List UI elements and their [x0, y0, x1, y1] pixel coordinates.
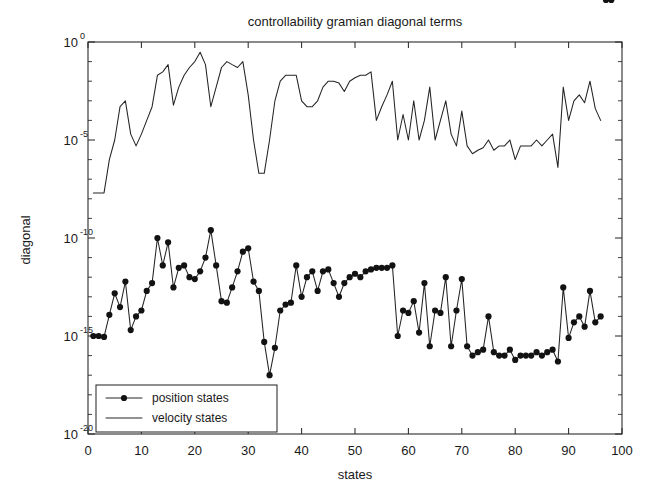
data-point — [218, 298, 224, 304]
data-point — [544, 349, 550, 355]
data-point — [533, 349, 539, 355]
legend-label-velocity-states: velocity states — [152, 411, 227, 425]
data-point — [315, 288, 321, 294]
x-tick-label: 70 — [455, 443, 469, 458]
data-point — [539, 353, 545, 359]
controllability-gramian-plot: controllability gramian diagonal terms 1… — [0, 0, 662, 497]
data-point — [357, 274, 363, 280]
y-axis-label: diagonal — [18, 215, 33, 264]
data-point — [576, 313, 582, 319]
data-point — [106, 312, 112, 318]
data-point — [485, 313, 491, 319]
data-point — [96, 333, 102, 339]
data-point — [181, 262, 187, 268]
data-point — [352, 271, 358, 277]
data-point — [341, 280, 347, 286]
data-point — [587, 288, 593, 294]
data-point — [202, 255, 208, 261]
data-point — [266, 372, 272, 378]
x-tick-label: 80 — [508, 443, 522, 458]
data-point — [379, 265, 385, 271]
data-point — [389, 262, 395, 268]
data-point — [309, 268, 315, 274]
data-point — [261, 339, 267, 345]
legend-label-position-states: position states — [152, 391, 229, 405]
x-tick-label: 40 — [294, 443, 308, 458]
y-tick-label: 10 — [64, 231, 78, 246]
y-tick-exponent: -15 — [80, 325, 93, 335]
data-point — [411, 298, 417, 304]
data-point — [154, 235, 160, 241]
data-point — [320, 268, 326, 274]
y-tick-exponent: -10 — [80, 227, 93, 237]
data-point — [598, 313, 604, 319]
y-tick-label: 10 — [64, 35, 78, 50]
chart-figure: controllability gramian diagonal terms 1… — [0, 0, 662, 497]
data-point — [549, 347, 555, 353]
x-tick-label: 50 — [348, 443, 362, 458]
data-point — [288, 300, 294, 306]
y-tick-label: 10 — [64, 133, 78, 148]
x-tick-label: 10 — [134, 443, 148, 458]
data-point — [384, 265, 390, 271]
data-point — [250, 278, 256, 284]
data-point — [363, 268, 369, 274]
data-point — [416, 329, 422, 335]
data-point — [528, 353, 534, 359]
data-point — [128, 327, 134, 333]
data-point — [112, 290, 118, 296]
data-point — [501, 353, 507, 359]
x-tick-label: 100 — [611, 443, 633, 458]
data-point — [560, 284, 566, 290]
data-point — [133, 313, 139, 319]
data-point — [277, 307, 283, 313]
data-point — [122, 278, 128, 284]
data-point — [186, 274, 192, 280]
data-point — [480, 347, 486, 353]
data-point — [592, 319, 598, 325]
data-point — [459, 276, 465, 282]
data-point — [325, 266, 331, 272]
y-tick-exponent: -20 — [80, 423, 93, 433]
chart-title: controllability gramian diagonal terms — [248, 14, 463, 29]
legend-marker-position-states — [121, 395, 127, 401]
data-point — [453, 307, 459, 313]
x-tick-label: 0 — [84, 443, 91, 458]
data-point — [469, 353, 475, 359]
data-point — [234, 268, 240, 274]
data-point — [170, 284, 176, 290]
data-point — [160, 262, 166, 268]
data-point — [437, 310, 443, 316]
data-point — [571, 319, 577, 325]
y-tick-label: 10 — [64, 427, 78, 442]
x-tick-label: 30 — [241, 443, 255, 458]
data-point — [245, 245, 251, 251]
data-point — [523, 353, 529, 359]
data-point — [464, 343, 470, 349]
chart-legend: position states velocity states — [96, 385, 277, 432]
data-point — [208, 227, 214, 233]
data-point — [368, 266, 374, 272]
y-tick-exponent: -5 — [80, 129, 88, 139]
data-point — [427, 343, 433, 349]
data-point — [117, 304, 123, 310]
data-point — [517, 353, 523, 359]
x-tick-label: 90 — [561, 443, 575, 458]
data-point — [165, 239, 171, 245]
data-point — [347, 274, 353, 280]
data-point — [240, 249, 246, 255]
x-axis-label: states — [338, 467, 373, 482]
data-point — [138, 307, 144, 313]
x-tick-label: 20 — [188, 443, 202, 458]
data-point — [256, 288, 262, 294]
data-point — [282, 302, 288, 308]
data-point — [491, 349, 497, 355]
data-point — [336, 294, 342, 300]
data-point — [90, 333, 96, 339]
data-point — [582, 324, 588, 330]
data-point — [566, 335, 572, 341]
data-point — [475, 349, 481, 355]
data-point — [101, 334, 107, 340]
data-point — [405, 310, 411, 316]
data-point — [448, 343, 454, 349]
